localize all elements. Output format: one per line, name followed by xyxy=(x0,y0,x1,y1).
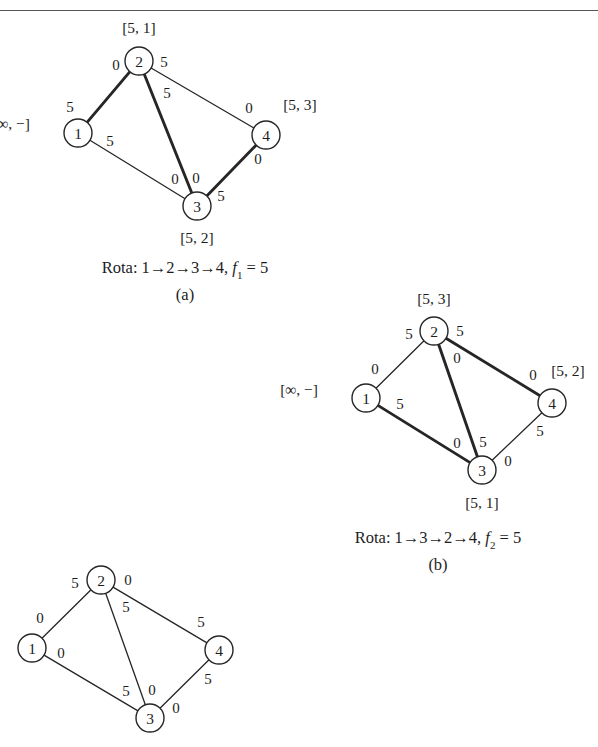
figure-caption-a: Rota: 1→2→3→4, f1 = 5 xyxy=(102,258,269,280)
graph-edge-a-1-3 xyxy=(90,140,185,198)
graph-edge-b-1-2 xyxy=(376,341,424,388)
graph-node-tag-b-2: [5, 3] xyxy=(417,291,451,307)
graph-edge-b-2-4 xyxy=(446,338,540,395)
edge-weight-b-1-3-head: 0 xyxy=(453,436,461,451)
caption-flow-value-a: = 5 xyxy=(242,258,268,277)
edge-weight-a-3-4-tail: 5 xyxy=(217,189,225,204)
edge-weight-b-2-4-head: 0 xyxy=(529,368,537,383)
caption-route-b: Rota: 1→3→2→4, xyxy=(355,528,486,547)
graph-node-label-b-4: 4 xyxy=(548,396,556,412)
graph-node-tag-a-2: [5, 1] xyxy=(122,20,156,36)
edge-weight-c-3-4-head: 5 xyxy=(204,672,212,687)
graph-node-label-b-3: 3 xyxy=(478,463,486,479)
edge-weight-a-1-3-head: 0 xyxy=(171,172,179,187)
edge-weight-b-3-4-head: 5 xyxy=(536,424,544,439)
edge-weight-c-3-4-tail: 0 xyxy=(172,701,180,716)
edge-weight-a-2-4-head: 0 xyxy=(245,101,253,116)
figure-letter-b: (b) xyxy=(428,555,447,575)
caption-flow-value-b: = 5 xyxy=(495,528,521,547)
edge-weight-b-3-4-tail: 0 xyxy=(504,454,512,469)
graph-node-tag-a-1: [∞, −] xyxy=(0,116,30,132)
figure-caption-b: Rota: 1→3→2→4, f2 = 5 xyxy=(355,528,522,550)
edge-weight-b-2-3-head: 5 xyxy=(479,435,487,450)
graph-node-tag-b-4: [5, 2] xyxy=(551,363,585,379)
caption-route-a: Rota: 1→2→3→4, xyxy=(102,258,233,277)
edge-weight-c-1-3-tail: 0 xyxy=(57,646,65,661)
graph-node-label-b-2: 2 xyxy=(430,324,438,340)
graph-node-label-c-2: 2 xyxy=(97,573,105,589)
graph-node-tag-a-4: [5, 3] xyxy=(283,97,317,113)
edge-weight-b-1-2-head: 5 xyxy=(405,327,413,342)
edge-weight-c-2-4-head: 5 xyxy=(197,615,205,630)
edge-weight-b-2-4-tail: 5 xyxy=(456,324,464,339)
edge-weight-a-2-3-tail: 5 xyxy=(163,86,171,101)
edge-weight-b-1-2-tail: 0 xyxy=(371,362,379,377)
edge-weight-c-2-3-tail: 5 xyxy=(122,600,130,615)
graph-node-label-a-1: 1 xyxy=(74,126,82,142)
graph-edge-c-2-4 xyxy=(113,587,207,643)
edge-weight-b-2-3-tail: 0 xyxy=(453,351,461,366)
edge-weight-a-1-3-tail: 5 xyxy=(106,134,114,149)
edge-weight-b-1-3-tail: 5 xyxy=(396,397,404,412)
caption-flow-sub-a: 1 xyxy=(237,269,243,281)
edge-weight-c-1-3-head: 5 xyxy=(122,684,130,699)
edge-weight-a-1-2-tail: 5 xyxy=(66,100,74,115)
graph-node-tag-b-1: [∞, −] xyxy=(280,382,318,398)
figure-letter-a: (a) xyxy=(176,285,194,305)
edge-weight-a-1-2-head: 0 xyxy=(112,58,120,73)
edge-weight-a-2-4-tail: 5 xyxy=(160,55,168,70)
graph-edge-a-1-2 xyxy=(87,72,130,123)
edge-weight-c-1-2-tail: 0 xyxy=(36,611,44,626)
edge-weight-c-1-2-head: 5 xyxy=(71,576,79,591)
graph-node-label-a-4: 4 xyxy=(262,128,270,144)
graph-edge-b-3-4 xyxy=(492,413,542,461)
graph-node-label-c-1: 1 xyxy=(28,641,36,657)
graph-node-label-c-4: 4 xyxy=(215,643,223,659)
graph-node-label-c-3: 3 xyxy=(146,711,154,727)
graph-node-tag-b-3: [5, 1] xyxy=(465,495,499,511)
graph-node-tag-a-3: [5, 2] xyxy=(180,230,214,246)
graph-edge-c-3-4 xyxy=(160,660,209,708)
edge-weight-c-2-3-head: 0 xyxy=(148,683,156,698)
edge-weight-a-2-3-head: 0 xyxy=(192,171,200,186)
graph-edge-c-1-2 xyxy=(42,590,91,638)
graph-node-label-a-3: 3 xyxy=(193,199,201,215)
graph-edge-a-3-4 xyxy=(207,145,256,196)
graph-node-label-a-2: 2 xyxy=(135,54,143,70)
caption-flow-sub-b: 2 xyxy=(490,539,496,551)
graph-node-label-b-1: 1 xyxy=(362,391,370,407)
edge-weight-a-3-4-head: 0 xyxy=(254,152,262,167)
edge-weight-c-2-4-tail: 0 xyxy=(124,573,132,588)
